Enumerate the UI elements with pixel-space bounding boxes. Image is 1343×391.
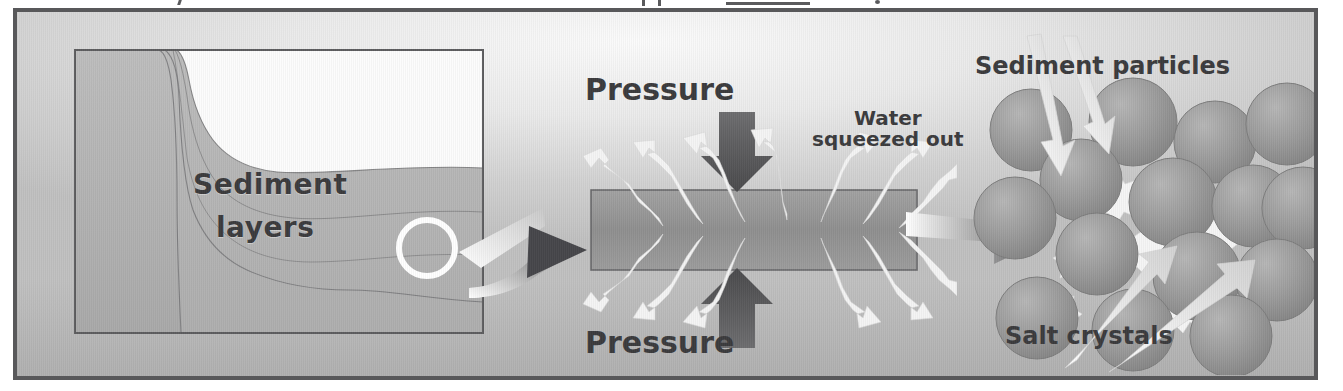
figure-frame: Sediment layers bbox=[13, 8, 1318, 380]
pressure-label-top: Pressure bbox=[585, 72, 734, 107]
sediment-label-line2: layers bbox=[216, 211, 314, 244]
clipped-caption-above bbox=[0, 0, 1343, 7]
panel-sediment-deposition: Sediment layers bbox=[61, 40, 485, 345]
panel-cementation: Sediment particles Salt crystals bbox=[957, 30, 1314, 375]
sediment-label-line1: Sediment bbox=[193, 168, 347, 201]
figure-stage: Sediment layers bbox=[17, 12, 1314, 376]
water-label-line2: squeezed out bbox=[812, 129, 964, 150]
panel-compaction: Pressure Pressure Water squeezed out bbox=[487, 30, 957, 370]
water-label-line1: Water bbox=[812, 108, 964, 129]
sediment-particles-label: Sediment particles bbox=[975, 52, 1230, 80]
salt-crystals-label: Salt crystals bbox=[1005, 322, 1173, 350]
pressure-label-bottom: Pressure bbox=[585, 325, 734, 360]
water-squeezed-out-label: Water squeezed out bbox=[812, 108, 964, 150]
figure-page: Sediment layers bbox=[0, 0, 1343, 391]
